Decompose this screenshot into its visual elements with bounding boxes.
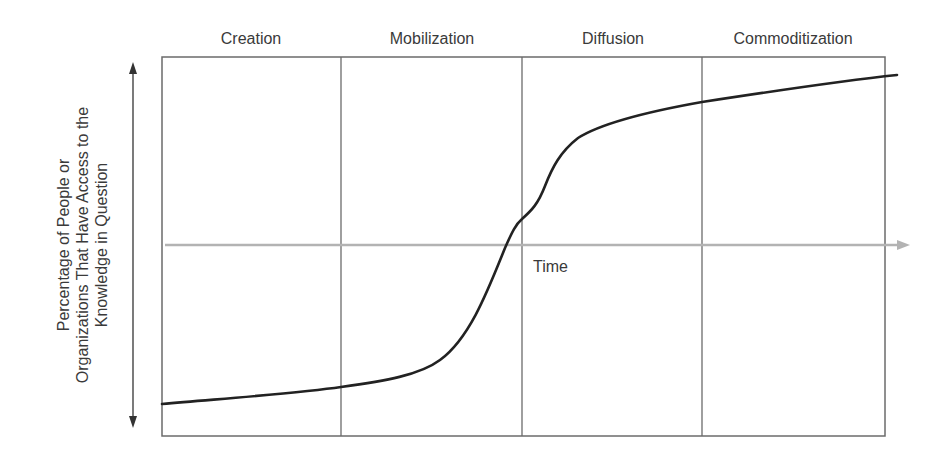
adoption-s-curve xyxy=(162,75,897,404)
stage-frame xyxy=(162,57,885,436)
y-axis-double-arrow xyxy=(129,62,137,428)
time-axis-label: Time xyxy=(533,258,568,276)
diagram-canvas xyxy=(0,0,939,458)
time-axis-arrow xyxy=(165,240,910,250)
